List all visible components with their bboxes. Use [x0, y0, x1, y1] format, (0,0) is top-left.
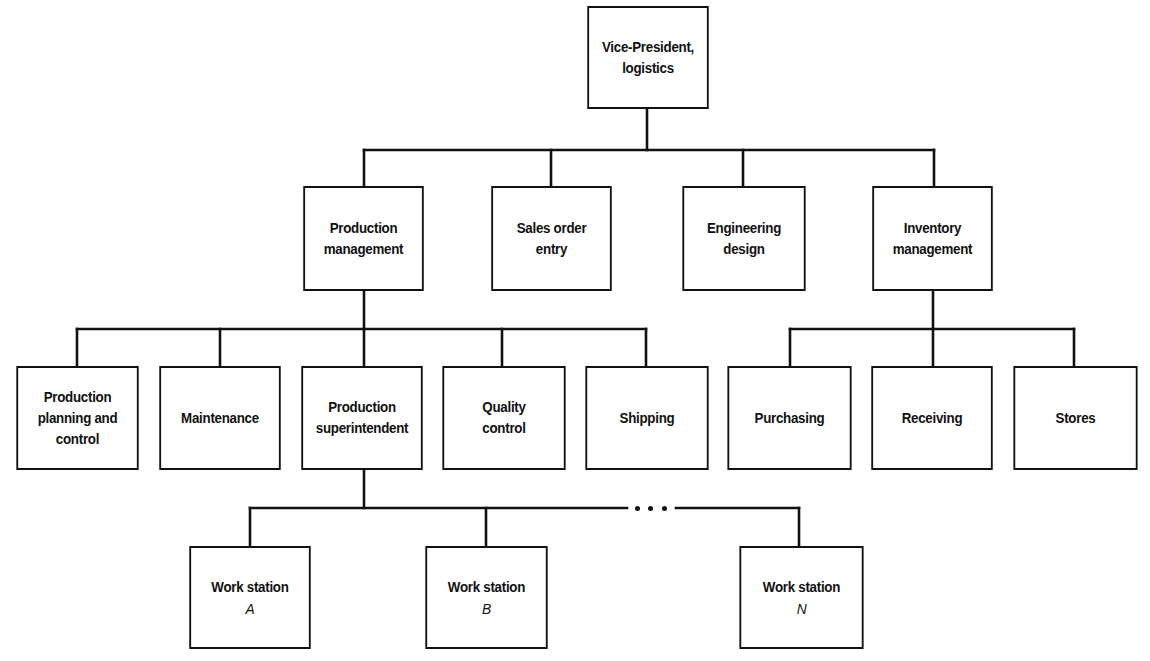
node-label: Engineering: [707, 218, 781, 239]
node-label: management: [893, 239, 973, 260]
node-label: Shipping: [620, 408, 675, 429]
node-label-letter: N: [797, 598, 807, 619]
node-quality-control: Quality control: [442, 366, 565, 470]
node-stores: Stores: [1013, 366, 1137, 470]
node-label: Purchasing: [755, 408, 825, 429]
node-label: design: [723, 239, 764, 260]
node-label: Production: [328, 397, 396, 418]
node-work-station-n: Work station N: [739, 546, 863, 649]
node-label: Receiving: [902, 408, 963, 429]
node-label: superintendent: [316, 418, 408, 439]
node-label: Maintenance: [181, 408, 259, 429]
ellipsis-dot: [635, 506, 640, 511]
node-vice-president-logistics: Vice-President, logistics: [587, 6, 708, 109]
node-label: planning and: [38, 408, 118, 429]
node-production-superintendent: Production superintendent: [301, 366, 422, 470]
node-label: Inventory: [904, 218, 962, 239]
node-label: Quality: [482, 397, 525, 418]
node-label: Stores: [1056, 408, 1096, 429]
node-label: Work station: [448, 577, 525, 598]
node-sales-order-entry: Sales order entry: [491, 186, 612, 291]
node-label: Sales order: [517, 218, 587, 239]
node-shipping: Shipping: [585, 366, 708, 470]
connector-lines: [0, 0, 1150, 661]
ellipsis-dot: [648, 506, 653, 511]
node-label: Work station: [763, 577, 840, 598]
node-receiving: Receiving: [871, 366, 992, 470]
node-label: entry: [536, 239, 567, 260]
node-label: control: [56, 429, 99, 450]
node-inventory-management: Inventory management: [872, 186, 993, 291]
node-label: Work station: [211, 577, 288, 598]
node-label-letter: A: [246, 598, 255, 619]
org-chart: Vice-President, logistics Production man…: [0, 0, 1150, 661]
node-production-planning-and-control: Production planning and control: [16, 366, 138, 470]
node-work-station-a: Work station A: [189, 546, 310, 649]
node-label: management: [324, 239, 404, 260]
node-label: logistics: [622, 58, 674, 79]
node-label: control: [482, 418, 525, 439]
ellipsis-dot: [662, 506, 667, 511]
node-engineering-design: Engineering design: [682, 186, 805, 291]
node-work-station-b: Work station B: [425, 546, 547, 649]
node-label: Production: [44, 387, 112, 408]
node-label: Production: [330, 218, 398, 239]
node-purchasing: Purchasing: [727, 366, 851, 470]
node-label-letter: B: [482, 598, 491, 619]
node-maintenance: Maintenance: [159, 366, 280, 470]
node-label: Vice-President,: [602, 37, 694, 58]
node-production-management: Production management: [303, 186, 424, 291]
